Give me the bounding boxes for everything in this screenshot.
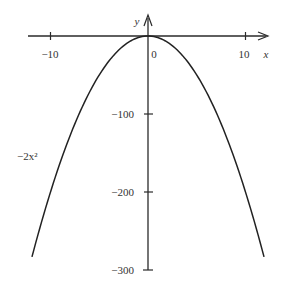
- x-tick-label-10: 10: [239, 48, 251, 60]
- y-tick-label-neg200: −200: [111, 186, 134, 198]
- function-label: −2x²: [17, 150, 38, 162]
- y-axis-label: y: [134, 15, 140, 27]
- x-axis-label: x: [263, 48, 269, 60]
- y-tick-label-neg300: −300: [111, 264, 134, 276]
- parabola-chart: −10 0 10 x y −100 −200 −300 −2x²: [0, 0, 283, 287]
- x-tick-label-neg10: −10: [41, 48, 59, 60]
- x-tick-label-0: 0: [151, 48, 157, 60]
- y-tick-label-neg100: −100: [111, 108, 134, 120]
